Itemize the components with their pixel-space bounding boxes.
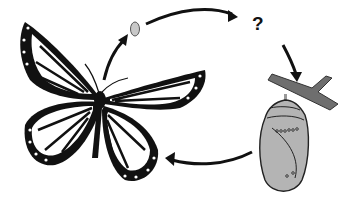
egg-icon: [131, 22, 140, 36]
butterfly-icon: [20, 22, 205, 181]
chrysalis-icon: [260, 94, 309, 191]
arrow-adult-to-egg: [104, 40, 124, 80]
missing-stage-label: ?: [252, 14, 264, 33]
life-cycle-diagram: ?: [0, 0, 351, 203]
